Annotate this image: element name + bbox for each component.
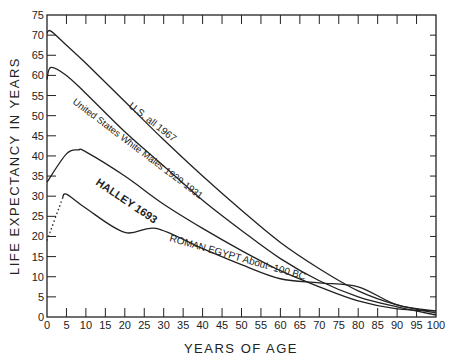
curve-us-1967 xyxy=(47,31,436,313)
label-us-1967: U.S. all 1967 xyxy=(127,100,179,144)
x-tick-label: 20 xyxy=(119,319,131,331)
y-tick-label: 30 xyxy=(32,190,44,202)
label-halley: HALLEY 1693 xyxy=(94,176,160,226)
x-tick-label: 25 xyxy=(138,319,150,331)
x-tick-label: 90 xyxy=(391,319,403,331)
y-tick-label: 25 xyxy=(32,210,44,222)
y-tick-label: 5 xyxy=(38,291,44,303)
y-tick-label: 10 xyxy=(32,271,44,283)
y-tick-label: 15 xyxy=(32,251,44,263)
x-tick-label: 70 xyxy=(313,319,325,331)
x-tick-label: 50 xyxy=(235,319,247,331)
y-tick-label: 45 xyxy=(32,130,44,142)
x-tick-label: 95 xyxy=(410,319,422,331)
y-tick-label: 55 xyxy=(32,90,44,102)
x-tick-label: 55 xyxy=(255,319,267,331)
x-tick-label: 5 xyxy=(63,319,69,331)
x-tick-label: 30 xyxy=(158,319,170,331)
x-tick-label: 80 xyxy=(352,319,364,331)
life-expectancy-chart: 0510152025303540455055606570758085909510… xyxy=(0,0,452,362)
y-tick-label: 40 xyxy=(32,150,44,162)
y-tick-label: 50 xyxy=(32,110,44,122)
y-axis-title: LIFE EXPECTANCY IN YEARS xyxy=(7,57,22,275)
y-tick-label: 0 xyxy=(38,311,44,323)
curve-roman-egypt-dotted xyxy=(47,198,63,240)
x-tick-label: 65 xyxy=(294,319,306,331)
x-tick-label: 60 xyxy=(274,319,286,331)
x-tick-label: 40 xyxy=(196,319,208,331)
x-tick-label: 45 xyxy=(216,319,228,331)
x-tick-label: 0 xyxy=(44,319,50,331)
x-tick-label: 15 xyxy=(99,319,111,331)
plot-border xyxy=(47,15,436,317)
x-tick-label: 10 xyxy=(80,319,92,331)
axis-ticks: 0510152025303540455055606570758085909510… xyxy=(32,9,445,331)
curves xyxy=(47,31,436,315)
x-tick-label: 100 xyxy=(427,319,445,331)
plot-frame xyxy=(47,15,436,317)
y-tick-label: 60 xyxy=(32,69,44,81)
x-axis-title: YEARS OF AGE xyxy=(184,341,298,356)
x-tick-label: 75 xyxy=(333,319,345,331)
curve-roman-egypt xyxy=(63,194,436,311)
y-tick-label: 70 xyxy=(32,29,44,41)
y-tick-label: 75 xyxy=(32,9,44,21)
label-roman-egypt: ROMAN EGYPT About~100 BC xyxy=(168,232,307,282)
y-tick-label: 65 xyxy=(32,49,44,61)
x-tick-label: 35 xyxy=(177,319,189,331)
y-tick-label: 35 xyxy=(32,170,44,182)
x-tick-label: 85 xyxy=(372,319,384,331)
y-tick-label: 20 xyxy=(32,230,44,242)
